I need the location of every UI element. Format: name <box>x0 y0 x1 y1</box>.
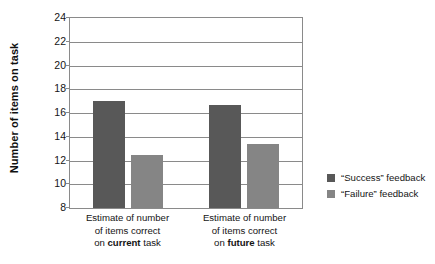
y-tick-label: 24 <box>44 11 66 23</box>
category-line-3: on current task <box>69 237 186 250</box>
y-axis-title: Number of items on task <box>8 42 20 173</box>
bar <box>93 101 125 208</box>
gridline <box>70 42 302 43</box>
y-tick-label: 18 <box>44 82 66 94</box>
category-line-3-bold: future <box>227 237 254 248</box>
legend-item[interactable]: “Success” feedback <box>327 172 432 183</box>
legend-label: “Failure” feedback <box>341 188 418 199</box>
legend-item[interactable]: “Failure” feedback <box>327 188 432 199</box>
category-line-3-suffix: task <box>255 237 275 248</box>
y-tick-label: 8 <box>44 201 66 213</box>
y-tick-label: 20 <box>44 59 66 71</box>
category-line-3-prefix: on <box>214 237 227 248</box>
category-line-3-suffix: task <box>141 237 161 248</box>
category-line-2: of items correct <box>186 225 303 238</box>
category-label-future: Estimate of number of items correct on f… <box>186 212 303 262</box>
y-axis-tick-labels: 81012141618202224 <box>40 17 66 209</box>
plot-area <box>69 17 303 209</box>
category-line-3: on future task <box>186 237 303 250</box>
category-line-3-bold: current <box>108 237 141 248</box>
category-line-2: of items correct <box>69 225 186 238</box>
y-tick-label: 10 <box>44 177 66 189</box>
legend-swatch-icon <box>327 174 335 182</box>
y-tick-label: 12 <box>44 154 66 166</box>
legend-swatch-icon <box>327 190 335 198</box>
category-line-1: Estimate of number <box>69 212 186 225</box>
y-tick-label: 14 <box>44 130 66 142</box>
y-axis-title-container: Number of items on task <box>0 0 28 215</box>
category-label-current: Estimate of number of items correct on c… <box>69 212 186 262</box>
x-axis-category-labels: Estimate of number of items correct on c… <box>69 212 303 262</box>
bar <box>131 155 163 208</box>
y-tick-label: 22 <box>44 35 66 47</box>
gridline <box>70 89 302 90</box>
category-line-1: Estimate of number <box>186 212 303 225</box>
category-line-3-prefix: on <box>94 237 107 248</box>
legend-label: “Success” feedback <box>341 172 425 183</box>
bar-chart-figure: Number of items on task 8101214161820222… <box>0 0 435 264</box>
bar <box>247 144 279 208</box>
y-tick-label: 16 <box>44 106 66 118</box>
gridline <box>70 66 302 67</box>
chart-legend: “Success” feedback“Failure” feedback <box>327 172 432 204</box>
bar <box>209 105 241 208</box>
